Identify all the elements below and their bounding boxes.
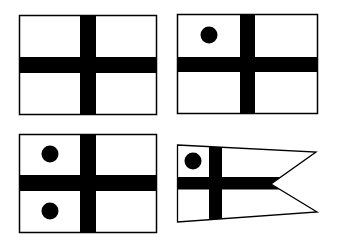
cross-flag-one-dot	[178, 15, 318, 114]
dot-icon	[42, 203, 59, 220]
cross-flag-two-dots	[20, 135, 157, 233]
flags-diagram	[0, 0, 338, 237]
plain-cross-flag	[20, 16, 157, 115]
dot-icon	[185, 153, 202, 170]
cross-horizontal-bar	[178, 57, 318, 72]
cross-horizontal-bar	[20, 57, 157, 73]
dot-icon	[42, 146, 59, 163]
dot-icon	[201, 27, 218, 44]
cross-horizontal-bar	[20, 175, 157, 191]
